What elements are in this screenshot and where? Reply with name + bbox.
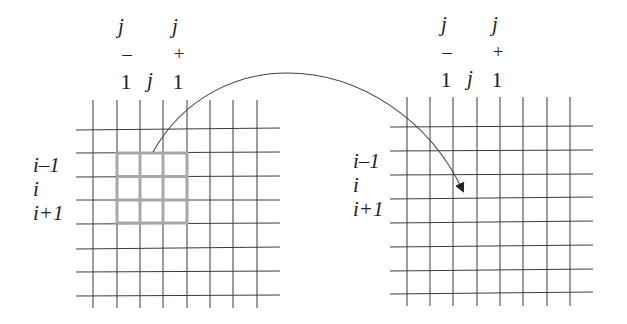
- left-grid: [76, 100, 280, 308]
- left-col-j: j: [144, 68, 153, 92]
- right-grid: [390, 97, 593, 306]
- left-col-jp1-bottom: 1: [173, 69, 184, 94]
- left-col-jp1-top: j: [169, 14, 178, 38]
- left-col-jm1-top: j: [115, 14, 124, 38]
- curved-arrow: [153, 73, 463, 191]
- highlighted-neighborhood: [117, 153, 187, 223]
- left-col-jp1-mid: +: [174, 43, 185, 64]
- left-row-labels: i–1 i i+1: [33, 153, 64, 225]
- right-col-jp1-mid: +: [493, 41, 504, 62]
- right-col-jp1-top: j: [489, 12, 498, 36]
- right-col-jp1-bottom: 1: [492, 67, 503, 92]
- convolution-diagram: j – 1 j j + 1 i–1 i i+1 j – 1 j j + 1 i–…: [0, 0, 627, 324]
- left-row-i: i: [33, 177, 39, 201]
- left-row-ip1: i+1: [33, 201, 64, 225]
- right-row-labels: i–1 i i+1: [353, 149, 384, 221]
- right-row-ip1: i+1: [353, 197, 384, 221]
- left-col-jm1-mid: –: [121, 43, 132, 64]
- right-col-j: j: [464, 66, 473, 90]
- right-col-jm1-top: j: [438, 12, 447, 36]
- right-column-labels: j – 1 j j + 1: [438, 12, 503, 92]
- left-col-jm1-bottom: 1: [121, 69, 132, 94]
- right-row-i: i: [353, 173, 359, 197]
- right-col-jm1-bottom: 1: [441, 67, 452, 92]
- right-col-jm1-mid: –: [441, 41, 452, 62]
- left-column-labels: j – 1 j j + 1: [115, 14, 184, 94]
- right-row-im1: i–1: [353, 149, 380, 173]
- left-row-im1: i–1: [33, 153, 60, 177]
